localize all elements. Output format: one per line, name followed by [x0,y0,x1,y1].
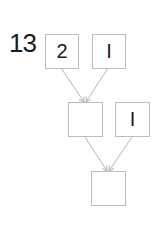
box-top-left: 2 [45,34,79,69]
box-middle-left[interactable] [68,102,103,137]
box-middle-right: I [115,102,150,137]
arrow-top-right-to-middle [86,68,108,102]
box-bottom[interactable] [91,171,126,206]
arrow-top-left-to-middle [61,68,84,102]
arrow-middle-right-to-bottom [109,137,132,171]
arrow-middle-left-to-bottom [85,137,107,171]
box-top-right: I [92,34,126,69]
